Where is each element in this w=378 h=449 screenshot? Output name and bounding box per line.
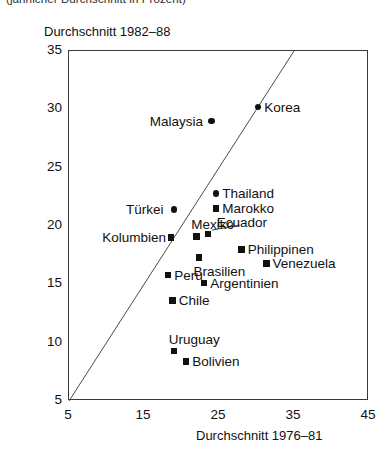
data-label-ecuador: Ecuador [217,216,267,230]
y-tick-5: 5 [28,392,62,407]
scatter-chart-figure: (jährlicher Durchschnitt in Prozent) Dur… [0,0,378,449]
y-tick-30: 30 [28,100,62,115]
data-label-venezuela: Venezuela [273,257,336,271]
x-tick-35: 35 [278,407,308,422]
data-point-brasilien [196,254,203,261]
plot-area: KoreaMalaysiaThailandMarokkoTürkeiMexiko… [68,50,368,400]
data-point-philippinen [238,246,245,253]
data-label-kolumbien: Kolumbien [102,231,166,245]
data-label-marokko: Marokko [222,202,274,216]
x-axis-title: Durchschnitt 1976–81 [196,428,322,443]
data-label-chile: Chile [179,294,210,308]
data-point-trkei [171,206,178,213]
data-label-trkei: Türkei [126,203,164,217]
x-tick-45: 45 [353,407,378,422]
x-tick-25: 25 [203,407,233,422]
data-label-bolivien: Bolivien [192,355,239,369]
data-point-thailand [213,190,220,197]
data-label-peru: Peru [174,269,203,283]
y-tick-35: 35 [28,42,62,57]
x-tick-15: 15 [128,407,158,422]
data-point-uruguay [171,348,178,355]
data-point-venezuela [263,260,270,267]
y-axis-title: Durchschnitt 1982–88 [44,24,170,39]
data-point-chile [169,297,176,304]
data-label-philippinen: Philippinen [248,243,314,257]
data-label-malaysia: Malaysia [150,115,203,129]
y-tick-20: 20 [28,217,62,232]
data-point-peru [165,272,172,279]
x-tick-5: 5 [53,407,83,422]
data-label-argentinien: Argentinien [210,277,278,291]
data-label-uruguay: Uruguay [169,333,220,347]
data-label-korea: Korea [264,101,300,115]
data-point-marokko [213,205,220,212]
data-label-thailand: Thailand [222,187,274,201]
data-point-mexiko [193,233,200,240]
y-tick-10: 10 [28,334,62,349]
data-point-argentinien [201,280,208,287]
y-tick-25: 25 [28,159,62,174]
chart-caption: (jährlicher Durchschnitt in Prozent) [6,0,186,5]
y-tick-15: 15 [28,275,62,290]
data-point-malaysia [208,118,215,125]
data-point-ecuador [205,231,212,238]
data-point-bolivien [183,358,190,365]
data-point-kolumbien [168,234,175,241]
